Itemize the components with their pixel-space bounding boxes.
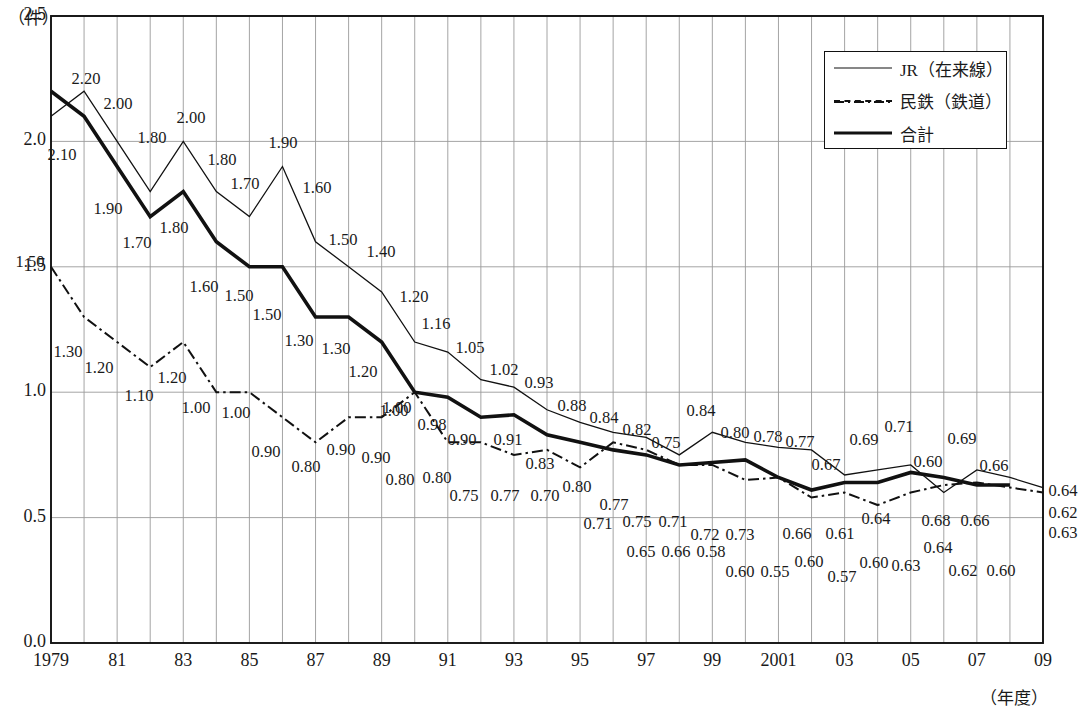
data-point-label: 1.50 [225,286,254,306]
data-point-label: 1.20 [400,287,429,307]
data-point-label: 0.64 [1049,481,1078,501]
data-point-label: 1.80 [208,150,237,170]
data-point-label: 0.90 [362,448,391,468]
data-point-label: 0.83 [526,454,555,474]
data-point-label: 0.71 [659,512,688,532]
x-axis-tick-label: 2001 [760,650,796,671]
data-point-label: 0.77 [491,486,520,506]
data-point-label: 0.80 [721,423,750,443]
data-point-label: 1.80 [160,218,189,238]
data-point-label: 1.90 [94,199,123,219]
data-point-label: 1.50 [16,252,45,272]
data-point-label: 2.10 [48,145,77,165]
data-point-label: 1.30 [54,342,83,362]
data-point-label: 0.71 [584,514,613,534]
data-point-label: 0.64 [924,538,953,558]
x-axis-tick-label: 85 [240,650,258,671]
x-axis-tick-label: 91 [439,650,457,671]
data-point-label: 0.66 [662,542,691,562]
data-point-label: 2.00 [104,94,133,114]
data-point-label: 0.69 [948,429,977,449]
data-point-label: 1.30 [322,339,351,359]
y-axis-tick-label: 0.5 [0,506,46,527]
data-point-label: 0.84 [687,401,716,421]
data-point-label: 0.75 [652,433,681,453]
data-point-label: 1.70 [231,174,260,194]
data-point-label: 1.00 [380,401,409,421]
data-point-label: 1.20 [158,368,187,388]
data-point-label: 0.80 [386,470,415,490]
data-point-label: 0.61 [826,524,855,544]
data-point-label: 0.68 [922,511,951,531]
data-point-label: 1.05 [456,338,485,358]
data-point-label: 0.93 [525,373,554,393]
data-point-label: 1.90 [269,133,298,153]
legend-swatch-thin-line [834,61,892,75]
legend-item: 民鉄（鉄道） [825,85,1006,118]
data-point-label: 0.57 [828,567,857,587]
data-point-label: 0.73 [726,525,755,545]
data-point-label: 0.75 [623,512,652,532]
x-axis-tick-label: 97 [637,650,655,671]
x-axis-tick-label: 83 [174,650,192,671]
x-axis-tick-label: 1979 [33,650,69,671]
x-axis-tick-label: 89 [373,650,391,671]
data-point-label: 0.63 [1049,523,1078,543]
data-point-label: 1.02 [490,360,519,380]
x-axis-tick-label: 93 [505,650,523,671]
data-point-label: 0.66 [980,456,1009,476]
data-point-label: 0.60 [987,561,1016,581]
data-point-label: 0.70 [531,486,560,506]
data-point-label: 1.40 [367,242,396,262]
data-point-label: 0.90 [448,430,477,450]
data-point-label: 1.10 [125,386,154,406]
data-point-label: 1.30 [285,331,314,351]
data-point-label: 0.80 [423,468,452,488]
data-point-label: 0.62 [949,561,978,581]
y-axis-tick-label: 2.5 [0,4,46,25]
data-point-label: 0.71 [885,417,914,437]
legend-item: JR（在来線） [825,52,1006,85]
legend-swatch-dash-dot-line [834,94,892,108]
y-axis-tick-label: 1.0 [0,380,46,401]
data-point-label: 0.62 [1049,503,1078,523]
legend-label: JR（在来線） [900,56,1003,81]
data-point-label: 1.80 [138,128,167,148]
data-point-label: 0.84 [590,408,619,428]
data-point-label: 0.82 [623,420,652,440]
data-point-label: 1.00 [182,398,211,418]
data-point-label: 0.60 [914,452,943,472]
data-point-label: 0.63 [892,556,921,576]
data-point-label: 1.70 [123,233,152,253]
x-axis-tick-label: 99 [703,650,721,671]
y-axis-tick-label: 0.0 [0,631,46,652]
data-point-label: 0.60 [726,562,755,582]
chart-container: （件） （年度） 0.00.51.01.52.02.5 197981838587… [0,0,1085,715]
x-axis-tick-label: 07 [968,650,986,671]
legend-label: 民鉄（鉄道） [900,88,1002,113]
chart-legend: JR（在来線） 民鉄（鉄道） 合計 [824,51,1007,149]
data-point-label: 1.60 [190,277,219,297]
data-point-label: 0.69 [850,430,879,450]
data-point-label: 0.78 [754,427,783,447]
data-point-label: 1.20 [85,358,114,378]
data-point-label: 1.00 [222,403,251,423]
data-point-label: 0.67 [812,455,841,475]
legend-item: 合計 [825,117,1006,150]
data-point-label: 0.75 [450,486,479,506]
legend-swatch-thick-line [834,126,892,140]
data-point-label: 0.98 [418,415,447,435]
data-point-label: 0.64 [862,509,891,529]
data-point-label: 0.58 [697,542,726,562]
x-axis-tick-label: 95 [571,650,589,671]
data-point-label: 1.50 [253,305,282,325]
data-point-label: 1.60 [303,178,332,198]
data-point-label: 1.50 [329,230,358,250]
data-point-label: 2.00 [177,108,206,128]
x-axis-tick-label: 03 [836,650,854,671]
data-point-label: 0.80 [563,477,592,497]
x-axis-tick-label: 87 [307,650,325,671]
data-point-label: 0.77 [786,432,815,452]
data-point-label: 0.55 [761,562,790,582]
x-axis-tick-label: 09 [1034,650,1052,671]
